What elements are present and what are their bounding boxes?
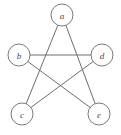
node-label-b: b <box>17 51 22 61</box>
graph-edge-a-e <box>66 25 95 103</box>
node-label-a: a <box>60 11 65 21</box>
graph-canvas: abdce <box>0 0 121 135</box>
node-layer: abdce <box>8 4 113 125</box>
graph-node-e: e <box>88 103 110 125</box>
node-label-e: e <box>97 110 101 120</box>
graph-diagram: abdce <box>0 0 121 135</box>
node-label-d: d <box>100 51 105 61</box>
graph-node-a: a <box>51 4 73 26</box>
graph-edge-a-c <box>26 25 58 104</box>
graph-node-c: c <box>11 103 33 125</box>
graph-node-d: d <box>91 44 113 66</box>
graph-node-b: b <box>8 44 30 66</box>
edge-layer <box>26 25 95 107</box>
node-label-c: c <box>20 110 24 120</box>
graph-edge-b-e <box>28 62 90 108</box>
